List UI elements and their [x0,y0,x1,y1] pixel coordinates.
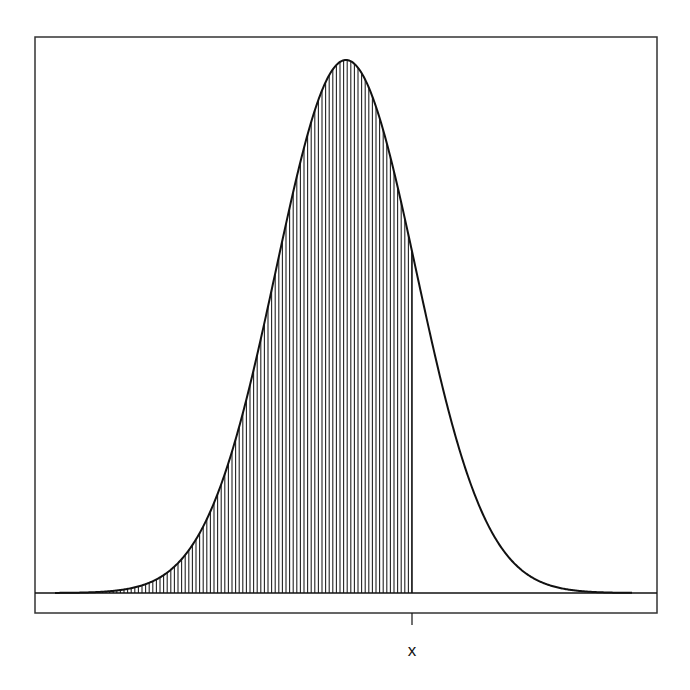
normal-distribution-chart: x [0,0,690,690]
plot-frame [35,37,657,613]
chart-canvas [0,0,690,690]
x-tick-label: x [408,641,417,661]
shaded-area-hatching [56,55,412,593]
